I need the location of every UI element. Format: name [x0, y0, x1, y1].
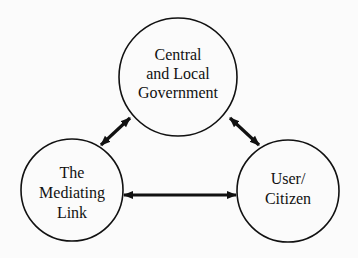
label-line: Central	[154, 46, 202, 63]
node-government: Central and Local Government	[119, 18, 237, 136]
label-line: The	[60, 164, 85, 181]
label-line: Link	[57, 204, 87, 221]
label-line: Citizen	[265, 190, 311, 207]
label-line: Government	[138, 84, 219, 101]
label-line: User/	[271, 170, 306, 187]
node-mediating-link: The Mediating Link	[21, 139, 123, 241]
double-arrow-government-user	[230, 118, 259, 145]
diagram-canvas: Central and Local Government The Mediati…	[0, 0, 358, 258]
label-line: Mediating	[39, 184, 105, 202]
node-user-citizen: User/ Citizen	[237, 140, 339, 242]
double-arrow-government-mediating	[101, 118, 130, 145]
label-line: and Local	[146, 65, 210, 82]
